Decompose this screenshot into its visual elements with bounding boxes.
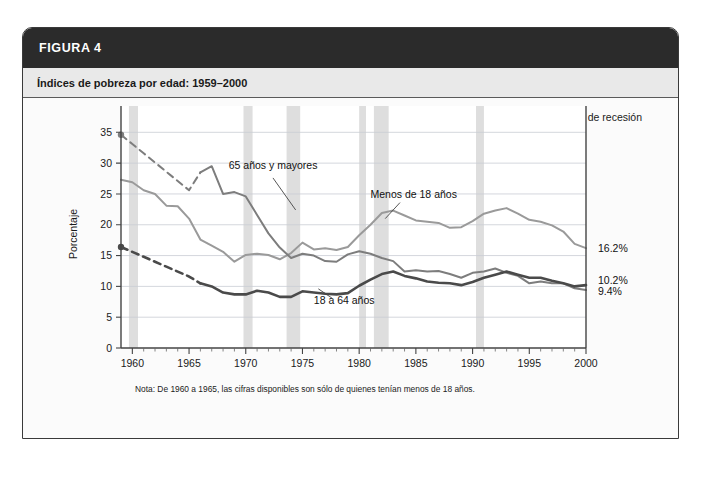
x-tick-label-1985: 1985 [404,357,428,369]
x-tick-label-1960: 1960 [121,357,145,369]
y-tick-label-10: 10 [100,280,112,292]
annotation-0: 65 años y mayores [229,159,318,171]
recession-band-1 [243,106,252,348]
recession-band-3 [359,106,366,348]
plot-area [121,106,586,348]
figure-title: Índices de pobreza por edad: 1959–2000 [37,77,247,89]
x-tick-label-2000: 2000 [574,357,598,369]
y-tick-label-30: 30 [100,157,112,169]
x-tick-label-1965: 1965 [177,357,201,369]
figure-card: FIGURA 4 Índices de pobreza por edad: 19… [22,27,679,439]
figure-number-label: FIGURA 4 [39,41,102,55]
y-tick-label-15: 15 [100,249,112,261]
recession-band-2 [287,106,301,348]
x-tick-label-1995: 1995 [518,357,542,369]
x-tick-label-1975: 1975 [291,357,315,369]
end-label-menos-de-18: 16.2% [598,242,628,254]
x-tick-label-1990: 1990 [461,357,485,369]
x-tick-label-1980: 1980 [347,357,371,369]
note-label: Nota: De 1960 a 1965, las cifras disponi… [135,384,475,394]
recession-band-5 [476,106,484,348]
y-tick-label-5: 5 [106,311,112,323]
figure-header: FIGURA 4 [23,28,678,68]
annotation-1: Menos de 18 años [371,188,457,200]
chart-svg: 0510152025303519601965197019751980198519… [23,98,678,438]
y-tick-label-35: 35 [100,126,112,138]
end-value-labels: 16.2%10.2%9.4% [598,242,628,297]
plot-background [121,106,586,348]
figure-body: Periodo de recesión 05101520253035196019… [23,98,678,438]
annotation-2: 18 a 64 años [314,294,375,306]
x-tick-label-1970: 1970 [234,357,258,369]
y-tick-label-25: 25 [100,188,112,200]
y-tick-label-0: 0 [106,342,112,354]
chart-note: Nota: De 1960 a 1965, las cifras disponi… [135,384,475,394]
y-tick-label-20: 20 [100,218,112,230]
figure-subheader: Índices de pobreza por edad: 1959–2000 [23,68,678,98]
recession-band-4 [374,106,389,348]
poverty-rate-line-chart: 0510152025303519601965197019751980198519… [23,98,678,438]
end-label-65-y-mayores: 9.4% [598,285,622,297]
y-axis-title: Porcentaje [67,209,79,259]
